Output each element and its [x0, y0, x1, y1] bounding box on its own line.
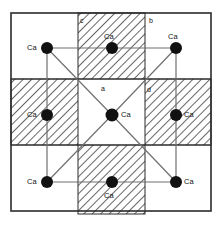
axis-label-c: c: [80, 17, 84, 24]
atom-middle-left[interactable]: [41, 109, 53, 121]
atom-label-center: Ca: [121, 111, 131, 119]
atom-top-middle[interactable]: [106, 42, 118, 54]
atom-middle-right[interactable]: [170, 109, 182, 121]
atom-center[interactable]: [106, 109, 119, 122]
atom-top-right[interactable]: [170, 42, 182, 54]
atom-top-left[interactable]: [41, 42, 53, 54]
atom-label-bottom-middle: Ca: [104, 192, 114, 200]
atom-label-middle-right: Ca: [184, 111, 194, 119]
atom-bottom-middle[interactable]: [106, 176, 118, 188]
figure-canvas: Ca Ca Ca Ca Ca Ca Ca Ca Ca c b a d: [0, 0, 222, 228]
atom-bottom-right[interactable]: [170, 176, 182, 188]
atom-bottom-left[interactable]: [41, 176, 53, 188]
axis-label-d: d: [147, 86, 151, 93]
atom-label-bottom-right: Ca: [184, 178, 194, 186]
atom-label-top-left: Ca: [27, 44, 37, 52]
atom-label-bottom-left: Ca: [27, 178, 37, 186]
axis-label-b: b: [149, 17, 153, 24]
atom-label-middle-left: Ca: [27, 111, 37, 119]
atom-label-top-middle: Ca: [104, 33, 114, 41]
axis-label-a: a: [101, 85, 105, 92]
atom-label-top-right: Ca: [168, 33, 178, 41]
